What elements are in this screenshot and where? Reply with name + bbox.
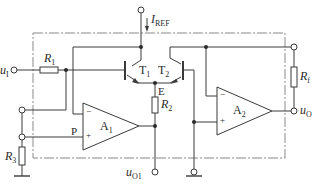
r2-label: R2 [161, 98, 172, 113]
rf-label: Rf [300, 70, 310, 85]
iref-label: IREF [151, 13, 170, 28]
r1-label: R1 [44, 52, 55, 67]
r3-label: R3 [5, 150, 16, 165]
t1-label: T1 [139, 64, 150, 79]
node-p-label: P [71, 126, 77, 137]
resistor-rf [291, 67, 297, 87]
a2-label: A2 [233, 104, 246, 119]
a1-label: A1 [100, 120, 113, 135]
resistor-r1 [40, 67, 58, 73]
t2-label: T2 [158, 64, 169, 79]
a2-plus-sign: + [220, 116, 225, 125]
a1-plus-sign: + [86, 131, 91, 140]
a1-minus-sign: − [86, 107, 91, 116]
uo1-label: uO1 [126, 166, 142, 181]
a2-minus-sign: − [220, 90, 225, 99]
ui-label: uI [0, 64, 9, 79]
resistor-r3 [19, 147, 25, 165]
uo-label: uO [300, 104, 312, 119]
node-e-label: E [158, 86, 165, 97]
resistor-r2 [152, 97, 158, 113]
